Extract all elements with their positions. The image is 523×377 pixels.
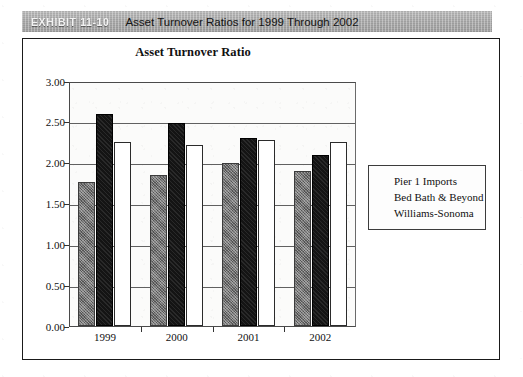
x-axis-tick-label: 2002 [309, 331, 331, 343]
legend-item: Bed Bath & Beyond [377, 189, 477, 205]
legend-swatch [377, 176, 387, 186]
y-axis-tick-label: 1.00 [31, 240, 65, 251]
exhibit-title: Asset Turnover Ratios for 1999 Through 2… [109, 16, 358, 28]
y-axis-tick-label: 0.50 [31, 281, 65, 292]
x-axis-tick-mark [284, 327, 285, 332]
x-axis-tick-label: 2000 [166, 331, 188, 343]
exhibit-number: EXHIBIT 11-10 [22, 16, 109, 28]
bar [150, 175, 167, 326]
y-axis-tick-label: 1.50 [31, 199, 65, 210]
y-axis-tick-mark [64, 286, 69, 287]
bar [96, 114, 113, 326]
x-axis-tick-label: 2001 [237, 331, 259, 343]
x-axis-tick-label: 1999 [94, 331, 116, 343]
legend-swatch [377, 208, 387, 218]
bar [222, 163, 239, 326]
exhibit-header-band: EXHIBIT 11-10 Asset Turnover Ratios for … [22, 11, 492, 32]
chart-title: Asset Turnover Ratio [23, 45, 363, 60]
bar [294, 171, 311, 326]
bar [258, 140, 275, 326]
bar [168, 123, 185, 326]
x-axis-tick-mark [213, 327, 214, 332]
figure-frame: Asset Turnover Ratio 3.002.502.001.501.0… [22, 38, 500, 360]
x-axis: 1999200020012002 [69, 331, 356, 347]
legend-label: Bed Bath & Beyond [394, 191, 484, 203]
y-axis-tick-mark [64, 82, 69, 83]
y-axis-tick-label: 2.00 [31, 158, 65, 169]
legend-label: Williams-Sonoma [394, 207, 474, 219]
plot-area [69, 82, 356, 327]
y-axis-tick-mark [64, 245, 69, 246]
legend-item: Pier 1 Imports [377, 173, 477, 189]
bar [312, 155, 329, 327]
legend-label: Pier 1 Imports [394, 175, 457, 187]
bar [78, 182, 95, 326]
y-axis-tick-mark [64, 122, 69, 123]
chart-legend: Pier 1 ImportsBed Bath & BeyondWilliams-… [368, 165, 486, 230]
y-axis-tick-mark [64, 204, 69, 205]
y-axis-tick-label: 0.00 [31, 322, 65, 333]
bar [240, 138, 257, 326]
bar [186, 145, 203, 326]
legend-swatch [377, 192, 387, 202]
y-axis-tick-mark [64, 327, 69, 328]
y-axis-tick-label: 2.50 [31, 117, 65, 128]
x-axis-tick-mark [141, 327, 142, 332]
bar [114, 142, 131, 326]
y-axis: 3.002.502.001.501.000.500.00 [27, 82, 65, 327]
bar [330, 142, 347, 326]
y-axis-tick-mark [64, 163, 69, 164]
legend-item: Williams-Sonoma [377, 205, 477, 221]
y-axis-tick-label: 3.00 [31, 77, 65, 88]
